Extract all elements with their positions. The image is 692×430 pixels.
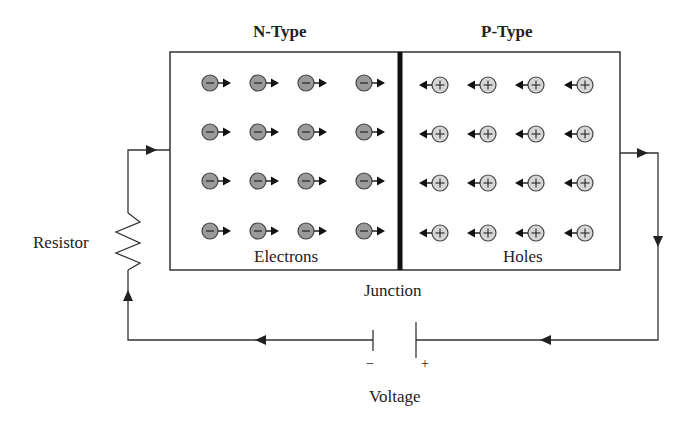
- battery-negative-sign: −: [366, 356, 374, 372]
- arrow-left-icon: [540, 335, 551, 345]
- arrow-right-icon: [377, 227, 385, 236]
- hole: [419, 77, 448, 93]
- arrow-right-icon: [146, 145, 157, 155]
- arrow-right-icon: [319, 79, 327, 88]
- arrow-left-icon: [467, 229, 475, 238]
- hole: [564, 175, 593, 191]
- arrow-left-icon: [515, 130, 523, 139]
- arrow-left-icon: [515, 179, 523, 188]
- arrow-down-icon: [653, 236, 663, 247]
- arrow-left-icon: [564, 81, 572, 90]
- arrow-right-icon: [637, 148, 648, 158]
- battery-positive-sign: +: [421, 356, 429, 372]
- electron-grid: [202, 75, 385, 239]
- arrow-right-icon: [271, 128, 279, 137]
- hole: [419, 126, 448, 142]
- hole: [515, 126, 544, 142]
- hole: [467, 126, 496, 142]
- hole: [467, 225, 496, 241]
- electron: [202, 223, 231, 239]
- electron: [298, 173, 327, 189]
- junction-label: Junction: [364, 281, 422, 301]
- arrow-right-icon: [223, 128, 231, 137]
- electron: [356, 75, 385, 91]
- arrow-left-icon: [467, 130, 475, 139]
- hole-grid: [419, 77, 593, 241]
- arrow-up-icon: [123, 290, 133, 301]
- arrow-right-icon: [223, 227, 231, 236]
- arrow-left-icon: [515, 81, 523, 90]
- electron: [202, 173, 231, 189]
- electron: [298, 223, 327, 239]
- electron: [356, 124, 385, 140]
- electron: [356, 173, 385, 189]
- hole: [564, 225, 593, 241]
- arrow-left-icon: [467, 81, 475, 90]
- resistor-symbol: [116, 213, 140, 270]
- arrow-left-icon: [419, 179, 427, 188]
- arrow-right-icon: [271, 177, 279, 186]
- hole: [467, 77, 496, 93]
- arrow-left-icon: [515, 229, 523, 238]
- resistor-label: Resistor: [33, 233, 89, 253]
- hole: [467, 175, 496, 191]
- electron: [298, 124, 327, 140]
- arrow-left-icon: [255, 335, 266, 345]
- electron: [250, 75, 279, 91]
- arrow-left-icon: [419, 229, 427, 238]
- electron: [356, 223, 385, 239]
- arrow-right-icon: [377, 79, 385, 88]
- arrow-right-icon: [319, 177, 327, 186]
- arrow-left-icon: [564, 130, 572, 139]
- arrow-right-icon: [377, 177, 385, 186]
- hole: [419, 175, 448, 191]
- arrow-right-icon: [319, 227, 327, 236]
- electron: [202, 75, 231, 91]
- arrow-left-icon: [419, 130, 427, 139]
- electron: [250, 173, 279, 189]
- arrow-right-icon: [223, 177, 231, 186]
- electron: [250, 124, 279, 140]
- pn-junction-diagram: [0, 0, 692, 430]
- electrons-label: Electrons: [254, 247, 318, 267]
- holes-label: Holes: [503, 247, 543, 267]
- electron: [298, 75, 327, 91]
- voltage-label: Voltage: [369, 387, 421, 407]
- hole: [515, 225, 544, 241]
- arrow-left-icon: [564, 229, 572, 238]
- arrow-right-icon: [271, 227, 279, 236]
- arrow-left-icon: [419, 81, 427, 90]
- n-type-label: N-Type: [253, 22, 307, 42]
- hole: [564, 77, 593, 93]
- hole: [419, 225, 448, 241]
- hole: [515, 77, 544, 93]
- arrow-right-icon: [319, 128, 327, 137]
- hole: [515, 175, 544, 191]
- semiconductor-box: [170, 52, 620, 270]
- arrow-left-icon: [564, 179, 572, 188]
- arrow-right-icon: [223, 79, 231, 88]
- arrow-right-icon: [377, 128, 385, 137]
- arrow-right-icon: [271, 79, 279, 88]
- arrow-left-icon: [467, 179, 475, 188]
- hole: [564, 126, 593, 142]
- electron: [202, 124, 231, 140]
- electron: [250, 223, 279, 239]
- p-type-label: P-Type: [481, 22, 533, 42]
